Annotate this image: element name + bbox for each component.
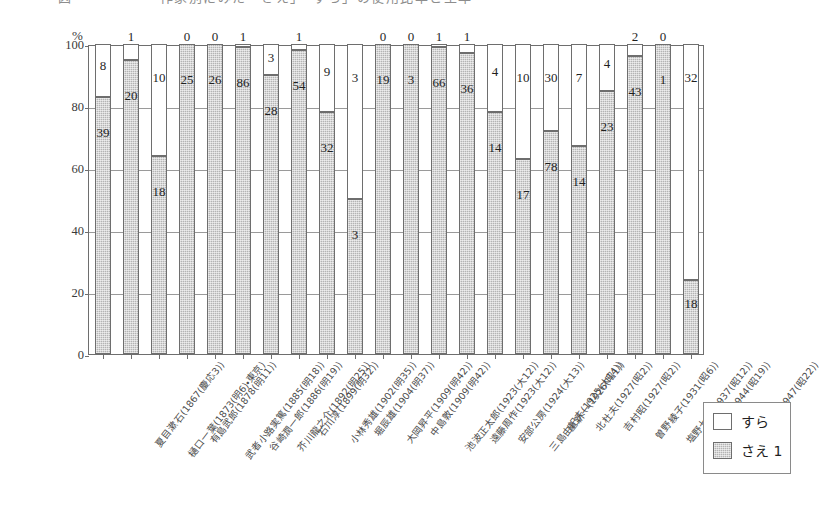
- y-axis-tick-label: 40: [54, 224, 84, 239]
- bar-segment-sae[interactable]: [235, 47, 252, 354]
- y-axis-tick-label: 100: [54, 38, 84, 53]
- legend-item-sae[interactable]: さえ 1: [713, 440, 790, 460]
- bar-column[interactable]: 398: [95, 46, 112, 354]
- legend-item-sura[interactable]: すら: [713, 411, 790, 431]
- bar-column[interactable]: 432: [627, 46, 644, 354]
- bar-column[interactable]: 283: [263, 46, 280, 354]
- bar-segment-sae[interactable]: [543, 131, 560, 354]
- bar-segment-sura[interactable]: [599, 44, 616, 91]
- bar-segment-sae[interactable]: [291, 50, 308, 354]
- bar-column[interactable]: 10: [655, 46, 672, 354]
- bar-segment-sura[interactable]: [683, 44, 700, 280]
- bar-column[interactable]: 260: [207, 46, 224, 354]
- y-axis-tick-mark: [85, 46, 89, 47]
- bar-value-label-sura: 1: [436, 29, 443, 45]
- bar-value-label-sura: 0: [212, 29, 219, 45]
- bar-segment-sae[interactable]: [683, 280, 700, 354]
- bar-segment-sae[interactable]: [403, 44, 420, 354]
- bar-column[interactable]: 190: [375, 46, 392, 354]
- legend-swatch-sae: [713, 442, 732, 459]
- bar-segment-sura[interactable]: [95, 44, 112, 97]
- bar-segment-sae[interactable]: [431, 47, 448, 354]
- bar-segment-sura[interactable]: [347, 44, 364, 199]
- bar-segment-sae[interactable]: [655, 44, 672, 354]
- y-axis-tick-label: 80: [54, 100, 84, 115]
- bar-column[interactable]: 33: [347, 46, 364, 354]
- bar-value-label-sura: 2: [632, 29, 639, 45]
- plot-area: 3982011810250260861283541329331903066136…: [88, 45, 704, 355]
- bar-column[interactable]: 201: [123, 46, 140, 354]
- bar-segment-sae[interactable]: [627, 56, 644, 354]
- bar-segment-sae[interactable]: [375, 44, 392, 354]
- bar-value-label-sura: 1: [464, 29, 471, 45]
- y-axis-tick-mark: [85, 108, 89, 109]
- bar-segment-sae[interactable]: [347, 199, 364, 354]
- bar-column[interactable]: 1832: [683, 46, 700, 354]
- bar-column[interactable]: 234: [599, 46, 616, 354]
- legend-label-sae: さえ 1: [741, 440, 782, 460]
- y-axis-tick-mark: [85, 232, 89, 233]
- bar-segment-sura[interactable]: [515, 44, 532, 159]
- x-axis-tick-labels: 夏目漱石(1867(慶応3))樋口一葉(1873(明6)・東京)有島武郎(187…: [88, 358, 704, 488]
- bar-segment-sae[interactable]: [95, 97, 112, 354]
- bar-column[interactable]: 30: [403, 46, 420, 354]
- bar-segment-sae[interactable]: [123, 60, 140, 355]
- bar-column[interactable]: 7830: [543, 46, 560, 354]
- y-axis-tick-mark: [85, 294, 89, 295]
- bar-column[interactable]: 861: [235, 46, 252, 354]
- bar-segment-sae[interactable]: [459, 53, 476, 354]
- y-axis-tick-label: 0: [54, 348, 84, 363]
- legend-swatch-sura: [713, 413, 732, 430]
- chart-legend: すらさえ 1: [703, 402, 791, 474]
- bar-segment-sura[interactable]: [319, 44, 336, 112]
- y-axis-tick-mark: [85, 356, 89, 357]
- bar-value-label-sura: 0: [184, 29, 191, 45]
- bar-value-label-sura: 1: [240, 29, 247, 45]
- bar-segment-sae[interactable]: [179, 44, 196, 354]
- bar-value-label-sura: 0: [408, 29, 415, 45]
- bar-segment-sae[interactable]: [207, 44, 224, 354]
- bar-segment-sura[interactable]: [487, 44, 504, 112]
- legend-label-sura: すら: [741, 411, 769, 431]
- bar-segment-sae[interactable]: [487, 112, 504, 354]
- bar-column[interactable]: 147: [571, 46, 588, 354]
- bar-segment-sura[interactable]: [263, 44, 280, 75]
- bar-segment-sae[interactable]: [571, 146, 588, 354]
- bar-segment-sura[interactable]: [627, 44, 644, 56]
- bar-column[interactable]: 144: [487, 46, 504, 354]
- bar-segment-sura[interactable]: [459, 44, 476, 53]
- bar-column[interactable]: 661: [431, 46, 448, 354]
- bar-value-label-sura: 1: [128, 29, 135, 45]
- bar-segment-sae[interactable]: [515, 159, 532, 354]
- y-axis-tick-label: 60: [54, 162, 84, 177]
- y-axis-tick-labels: 100806040200: [50, 45, 84, 355]
- bar-segment-sura[interactable]: [571, 44, 588, 146]
- bar-segment-sura[interactable]: [123, 44, 140, 60]
- bar-segment-sae[interactable]: [263, 75, 280, 354]
- bar-segment-sae[interactable]: [151, 156, 168, 354]
- bar-value-label-sura: 0: [380, 29, 387, 45]
- bar-column[interactable]: 1810: [151, 46, 168, 354]
- bar-column[interactable]: 361: [459, 46, 476, 354]
- bar-segment-sura[interactable]: [543, 44, 560, 131]
- bar-column[interactable]: 250: [179, 46, 196, 354]
- bar-column[interactable]: 541: [291, 46, 308, 354]
- y-axis-tick-label: 20: [54, 286, 84, 301]
- y-axis-tick-mark: [85, 170, 89, 171]
- bar-segment-sae[interactable]: [319, 112, 336, 354]
- bar-value-label-sura: 1: [296, 29, 303, 45]
- bar-segment-sura[interactable]: [151, 44, 168, 156]
- bar-value-label-sura: 0: [660, 29, 667, 45]
- bar-column[interactable]: 1710: [515, 46, 532, 354]
- bar-segment-sae[interactable]: [599, 91, 616, 355]
- bar-column[interactable]: 329: [319, 46, 336, 354]
